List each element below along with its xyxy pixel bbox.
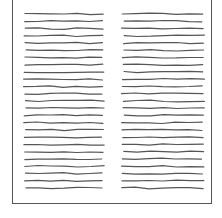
text-line — [25, 13, 103, 14]
text-line — [26, 108, 104, 109]
text-line — [123, 79, 205, 80]
text-line — [25, 93, 102, 94]
text-line — [122, 86, 202, 87]
text-line — [26, 50, 103, 51]
text-line — [24, 35, 103, 36]
text-line — [25, 166, 104, 168]
text-line — [25, 159, 102, 160]
text-line — [122, 166, 204, 167]
text-line — [124, 71, 203, 72]
text-line — [122, 13, 202, 14]
text-line — [122, 122, 203, 123]
text-line — [124, 43, 204, 44]
text-line — [26, 100, 105, 101]
text-line — [25, 57, 102, 58]
text-line — [123, 57, 204, 58]
text-line — [122, 93, 204, 94]
text-line — [122, 180, 204, 181]
text-line — [122, 144, 203, 145]
text-line — [122, 129, 202, 130]
text-line — [24, 79, 103, 80]
text-line — [124, 35, 204, 36]
text-line — [24, 122, 103, 123]
text-line — [25, 42, 102, 43]
text-line — [24, 86, 103, 88]
text-line — [26, 129, 104, 130]
text-line — [26, 187, 102, 188]
text-line — [25, 180, 102, 181]
text-line — [122, 158, 201, 159]
text-line — [123, 64, 202, 65]
text-line — [24, 137, 101, 138]
text-line — [122, 187, 203, 189]
text-line — [26, 173, 103, 175]
text-lines-sketch — [0, 0, 222, 218]
text-line — [25, 21, 103, 22]
text-line — [124, 100, 205, 102]
text-line — [124, 115, 203, 116]
text-line — [24, 115, 102, 116]
text-line — [25, 152, 103, 153]
text-line — [122, 28, 204, 29]
text-line — [123, 108, 204, 109]
text-line — [24, 144, 104, 145]
text-line — [24, 72, 104, 73]
text-line — [25, 64, 103, 65]
text-line — [25, 28, 103, 30]
text-line — [124, 151, 204, 152]
text-line — [124, 21, 202, 22]
text-line — [122, 173, 202, 174]
text-line — [123, 137, 203, 138]
text-line — [124, 50, 204, 51]
